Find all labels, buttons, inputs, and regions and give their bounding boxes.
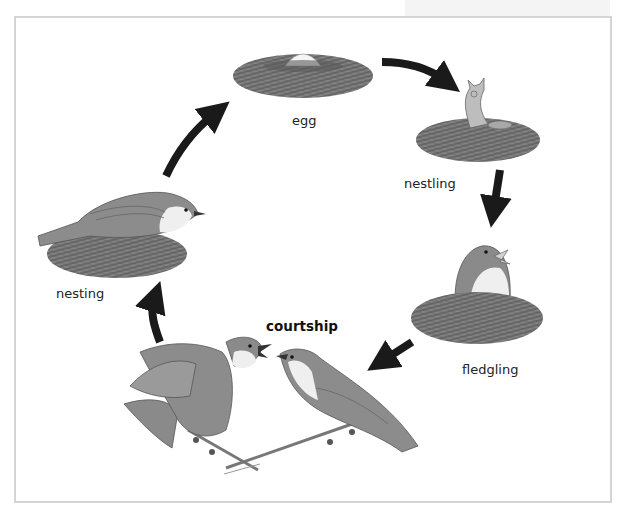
label-courtship: courtship	[266, 318, 338, 334]
arrow-fledgling-to-courtship-icon	[384, 342, 412, 360]
arrow-nestling-to-fledgling-icon	[494, 170, 500, 208]
nestling-bird-icon	[465, 78, 488, 128]
life-cycle-illustration	[0, 0, 625, 513]
label-nesting: nesting	[56, 286, 104, 301]
label-nestling: nestling	[404, 176, 456, 191]
label-egg: egg	[292, 113, 317, 128]
arrow-egg-to-nestling-icon	[382, 62, 444, 80]
egg-nest	[233, 54, 373, 98]
fledgling-nest	[411, 246, 543, 344]
arrow-courtship-to-nesting-icon	[152, 300, 160, 342]
label-fledgling: fledgling	[462, 362, 518, 377]
arrow-nesting-to-egg-icon	[166, 114, 214, 176]
left-bird-tail-icon	[124, 400, 178, 448]
courtship-birds	[124, 337, 418, 474]
nestling-nest	[416, 78, 540, 162]
nesting-bird-nest	[38, 192, 206, 278]
